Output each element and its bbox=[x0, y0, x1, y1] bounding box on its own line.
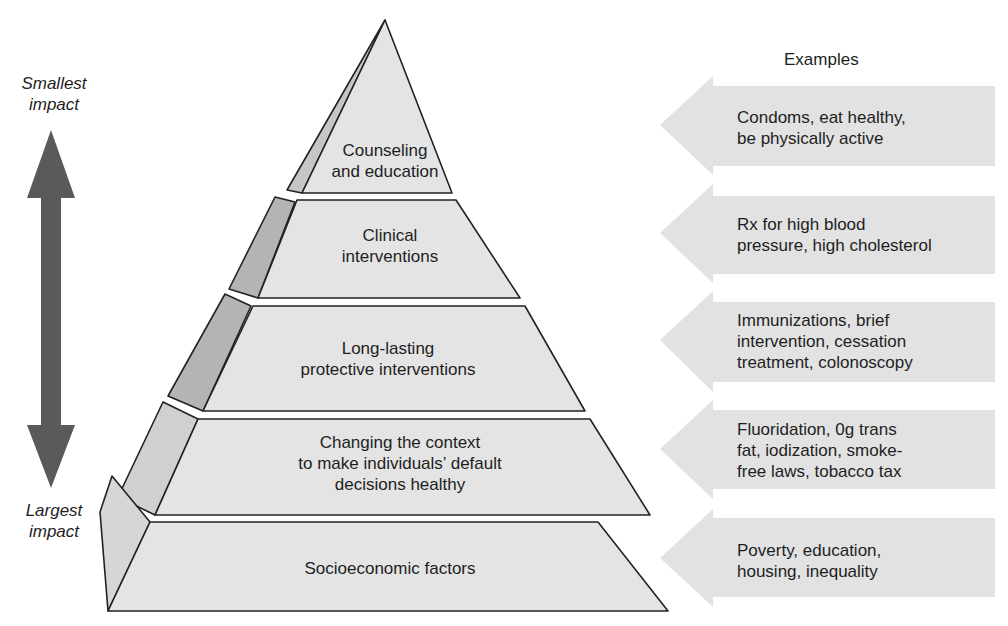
tier-label-clinical: Clinical interventions bbox=[290, 225, 490, 267]
tier-label-changing-context: Changing the context to make individuals… bbox=[230, 432, 570, 495]
example-text-2: Rx for high blood pressure, high cholest… bbox=[737, 214, 932, 256]
example-text-4: Fluoridation, 0g trans fat, iodization, … bbox=[737, 419, 902, 482]
tier-label-counseling: Counseling and education bbox=[305, 140, 465, 182]
example-text-5: Poverty, education, housing, inequality bbox=[737, 540, 881, 582]
example-text-1: Condoms, eat healthy, be physically acti… bbox=[737, 107, 906, 149]
impact-double-arrow-icon bbox=[27, 130, 75, 488]
pyramid bbox=[100, 20, 668, 611]
largest-impact-label: Largest impact bbox=[8, 500, 100, 542]
example-text-3: Immunizations, brief intervention, cessa… bbox=[737, 310, 913, 373]
tier-label-socioeconomic: Socioeconomic factors bbox=[240, 558, 540, 579]
tier-label-long-lasting: Long-lasting protective interventions bbox=[248, 338, 528, 380]
health-impact-pyramid-diagram: Smallest impact Largest impact Counselin… bbox=[0, 0, 1008, 626]
smallest-impact-label: Smallest impact bbox=[8, 73, 100, 115]
examples-header: Examples bbox=[784, 50, 859, 70]
